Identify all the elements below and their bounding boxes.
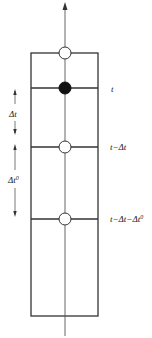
label-t-minus-dt: t−Δt: [110, 142, 127, 152]
node-t-minus-dt-open: [59, 141, 71, 153]
node-t-minus-dt-dt0-open: [59, 213, 71, 225]
interval-dt0-label: Δt0: [7, 175, 19, 185]
label-t: t: [111, 84, 114, 94]
time-stack-diagram: t t−Δt t−Δt−Δt0 Δt Δt0: [0, 0, 152, 338]
arrow-up-icon: [13, 89, 16, 95]
interval-dt-label: Δt: [8, 109, 17, 119]
label-t-minus-dt-dt0: t−Δt−Δt0: [110, 214, 143, 224]
node-top-open: [59, 47, 71, 59]
arrow-up-icon: [13, 144, 16, 150]
time-axis-arrowhead-icon: [63, 2, 68, 10]
node-t-filled: [59, 82, 71, 94]
arrow-down-icon: [13, 211, 16, 217]
arrow-down-icon: [13, 129, 16, 135]
